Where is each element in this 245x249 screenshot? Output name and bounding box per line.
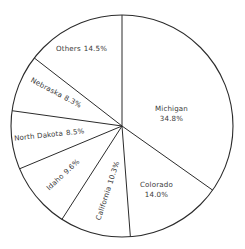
- slice-label-value: 34.8%: [155, 114, 188, 124]
- slice-label-name: Others: [56, 44, 81, 53]
- pie-chart: Michigan34.8%Colorado14.0%California10.3…: [0, 0, 245, 249]
- slice-label-name: Michigan: [155, 104, 188, 114]
- slice-label-value: 8.5%: [65, 126, 84, 137]
- slice-label-others: Others14.5%: [56, 44, 107, 54]
- slice-label-value: 14.0%: [140, 190, 173, 200]
- pie-chart-canvas: [0, 0, 245, 249]
- slice-label-name: Colorado: [140, 180, 173, 190]
- slice-divider-california: [122, 126, 130, 237]
- slice-label-value: 14.5%: [84, 44, 107, 53]
- slice-label-colorado: Colorado14.0%: [140, 180, 173, 199]
- slice-label-michigan: Michigan34.8%: [155, 104, 188, 123]
